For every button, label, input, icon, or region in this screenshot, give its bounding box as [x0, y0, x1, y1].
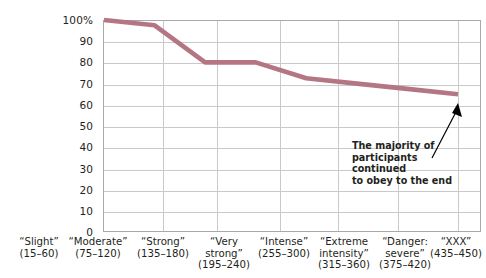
annotation-line-2: participants continued [352, 152, 470, 175]
x-tick-name-strong: “Strong” [141, 236, 185, 247]
gridline-v-5 [398, 21, 399, 231]
gridline-v-2 [217, 21, 218, 231]
y-tick-label-10: 10 [0, 205, 93, 217]
y-tick-label-100: 100% [0, 14, 93, 26]
y-tick-label-90: 90 [0, 35, 93, 47]
y-tick-label-70: 70 [0, 78, 93, 90]
y-tick-label-80: 80 [0, 56, 93, 68]
y-tick-label-60: 60 [0, 99, 93, 111]
x-tick-label-xxx: “XXX” (435–450) [425, 236, 486, 259]
x-tick-range-xxx: (435–450) [425, 248, 486, 260]
obedience-line-chart: 100% 90 80 70 60 50 40 30 20 10 0 [0, 0, 486, 278]
x-tick-range-strong: (135–180) [128, 248, 198, 260]
annotation-line-1: The majority of [352, 140, 470, 152]
x-tick-name-very-strong: “Very strong” [205, 236, 243, 259]
y-tick-label-30: 30 [0, 163, 93, 175]
annotation-line-3: to obey to the end [352, 175, 470, 187]
x-tick-name-danger-severe: “Danger: severe” [382, 236, 428, 259]
gridline-v-6 [458, 21, 459, 231]
x-tick-name-intense: “Intense” [260, 236, 308, 247]
x-tick-label-extreme-intensity: “Extreme intensity” (315–360) [309, 236, 379, 271]
x-tick-label-very-strong: “Very strong” (195–240) [190, 236, 258, 271]
gridline-h-50 [104, 127, 480, 128]
y-tick-label-20: 20 [0, 184, 93, 196]
gridline-h-80 [104, 63, 480, 64]
x-axis-labels: “Slight” (15–60) “Moderate” (75–120) “St… [0, 236, 486, 278]
x-tick-name-slight: “Slight” [19, 236, 59, 247]
plot-area [103, 20, 481, 232]
gridline-h-90 [104, 42, 480, 43]
gridline-h-20 [104, 191, 480, 192]
y-tick-label-50: 50 [0, 120, 93, 132]
gridline-h-70 [104, 85, 480, 86]
y-tick-label-40: 40 [0, 141, 93, 153]
x-tick-name-moderate: “Moderate” [68, 236, 127, 247]
gridline-h-60 [104, 106, 480, 107]
gridline-h-10 [104, 212, 480, 213]
chart-annotation: The majority of participants continued t… [352, 140, 470, 186]
x-tick-range-very-strong: (195–240) [190, 259, 258, 271]
x-tick-range-extreme-intensity: (315–360) [309, 259, 379, 271]
gridline-v-1 [163, 21, 164, 231]
x-tick-range-moderate: (75–120) [62, 248, 134, 260]
x-tick-label-moderate: “Moderate” (75–120) [62, 236, 134, 259]
gridline-v-4 [338, 21, 339, 231]
x-tick-name-xxx: “XXX” [441, 236, 471, 247]
gridline-v-3 [280, 21, 281, 231]
x-tick-name-extreme-intensity: “Extreme intensity” [319, 236, 368, 259]
x-tick-range-danger-severe: (375–420) [370, 259, 440, 271]
x-tick-label-strong: “Strong” (135–180) [128, 236, 198, 259]
